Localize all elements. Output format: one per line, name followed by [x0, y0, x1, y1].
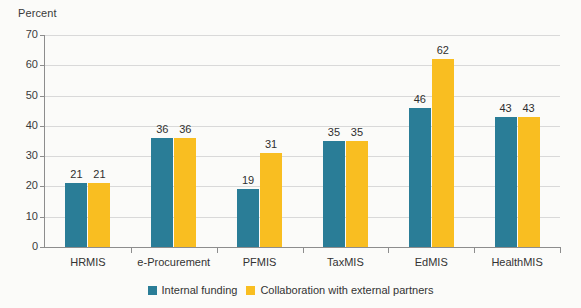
x-axis-tick	[131, 248, 132, 253]
x-axis-tick	[560, 248, 561, 253]
y-axis-title: Percent	[18, 7, 57, 19]
bar-value-label: 36	[151, 123, 173, 135]
bar-group: 3636	[151, 35, 196, 247]
legend-label: Internal funding	[162, 284, 238, 296]
legend-swatch	[246, 286, 255, 295]
bar	[323, 141, 345, 247]
y-axis-tick-label: 70	[10, 28, 38, 40]
x-axis-tick	[303, 248, 304, 253]
x-axis-tick	[474, 248, 475, 253]
legend-item: Internal funding	[148, 284, 238, 296]
bar	[237, 189, 259, 247]
bar-value-label: 62	[432, 44, 454, 56]
chart-legend: Internal fundingCollaboration with exter…	[0, 284, 581, 296]
gridline	[45, 96, 560, 97]
gridline	[45, 65, 560, 66]
bar-value-label: 35	[323, 126, 345, 138]
gridline	[45, 126, 560, 127]
bar-value-label: 35	[346, 126, 368, 138]
bar-group: 3535	[323, 35, 368, 247]
bar-value-label: 43	[495, 102, 517, 114]
bar-chart: Percent 010203040506070 2121363619313535…	[0, 0, 581, 308]
bar-value-label: 21	[88, 168, 110, 180]
bar	[346, 141, 368, 247]
x-axis-category-label: e-Procurement	[131, 256, 217, 268]
x-axis-category-label: PFMIS	[217, 256, 303, 268]
bar-value-label: 19	[237, 174, 259, 186]
gridline	[45, 35, 560, 36]
bar	[432, 59, 454, 247]
x-axis-category-label: TaxMIS	[303, 256, 389, 268]
y-axis-tick-label: 40	[10, 119, 38, 131]
bar	[174, 138, 196, 247]
x-axis-category-label: HealthMIS	[474, 256, 560, 268]
bar-value-label: 21	[65, 168, 87, 180]
bar-group: 4662	[409, 35, 454, 247]
bar-value-label: 31	[260, 138, 282, 150]
bar-group: 2121	[65, 35, 110, 247]
y-axis-tick-label: 50	[10, 89, 38, 101]
plot-area: 212136361931353546624343	[45, 35, 560, 247]
legend-swatch	[148, 286, 157, 295]
bar	[495, 117, 517, 247]
bar	[65, 183, 87, 247]
x-axis-tick	[217, 248, 218, 253]
gridline	[45, 186, 560, 187]
bar	[409, 108, 431, 247]
gridline	[45, 217, 560, 218]
y-axis-tick-label: 60	[10, 58, 38, 70]
gridline	[45, 156, 560, 157]
bar-value-label: 43	[518, 102, 540, 114]
legend-label: Collaboration with external partners	[260, 284, 433, 296]
bar-value-label: 36	[174, 123, 196, 135]
y-axis-tick-label: 30	[10, 149, 38, 161]
x-axis-category-label: HRMIS	[45, 256, 131, 268]
bar-value-label: 46	[409, 93, 431, 105]
bar-group: 1931	[237, 35, 282, 247]
y-axis-tick-label: 0	[10, 240, 38, 252]
x-axis-category-label: EdMIS	[388, 256, 474, 268]
y-axis-tick-label: 10	[10, 210, 38, 222]
bar	[260, 153, 282, 247]
bar-group: 4343	[495, 35, 540, 247]
bar	[88, 183, 110, 247]
y-axis-tick-label: 20	[10, 179, 38, 191]
bar	[518, 117, 540, 247]
bar	[151, 138, 173, 247]
x-axis-tick	[388, 248, 389, 253]
legend-item: Collaboration with external partners	[246, 284, 433, 296]
